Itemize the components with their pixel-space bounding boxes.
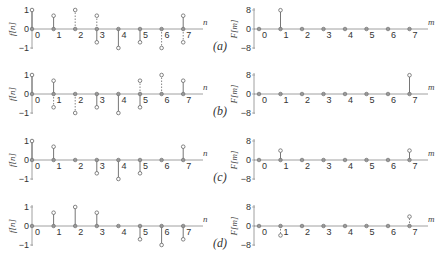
base-marker — [386, 27, 390, 31]
x-axis-label: m — [428, 148, 435, 158]
x-tick-label: 4 — [348, 30, 353, 40]
base-marker — [117, 92, 121, 96]
base-marker — [138, 92, 142, 96]
stem-marker — [138, 106, 142, 110]
stem-marker — [73, 8, 77, 12]
x-tick-label: 5 — [143, 161, 148, 171]
base-marker — [279, 92, 283, 96]
base-marker — [95, 158, 99, 162]
x-tick-label: 0 — [35, 227, 40, 237]
y-tick-label: −8 — [241, 43, 251, 53]
stem-marker — [30, 73, 34, 77]
x-tick-label: 1 — [57, 95, 62, 105]
base-marker — [386, 158, 390, 162]
row-c: 10−1f[n]n0123456780−8F[m]m01234567(c) — [7, 136, 435, 184]
stem-plot-figure: 10−1f[n]n0123456780−8F[m]m01234567(a)10−… — [0, 0, 441, 271]
x-tick-label: 3 — [327, 227, 332, 237]
frequency-domain-panel: 80−8F[m]m01234567 — [229, 136, 435, 184]
x-tick-label: 4 — [121, 30, 126, 40]
base-marker — [30, 92, 34, 96]
y-tick-label: −8 — [241, 240, 251, 250]
x-tick-label: 1 — [284, 30, 289, 40]
y-axis-label: f[n] — [7, 219, 17, 234]
stem-marker — [138, 41, 142, 45]
x-axis-label: m — [428, 17, 435, 27]
base-marker — [30, 158, 34, 162]
base-marker — [30, 27, 34, 31]
panel-label: (c) — [213, 170, 226, 184]
x-tick-label: 3 — [327, 95, 332, 105]
y-tick-label: −1 — [19, 174, 29, 184]
stem-marker — [160, 46, 164, 50]
base-marker — [117, 158, 121, 162]
stem-marker — [117, 111, 121, 115]
stem-marker — [279, 149, 283, 153]
x-tick-label: 6 — [165, 30, 170, 40]
x-tick-label: 3 — [327, 161, 332, 171]
x-tick-label: 2 — [78, 227, 83, 237]
y-tick-label: −1 — [19, 43, 29, 53]
stem-marker — [408, 215, 412, 219]
x-tick-label: 6 — [391, 30, 396, 40]
y-tick-label: 8 — [246, 136, 251, 146]
base-marker — [365, 158, 369, 162]
x-tick-label: 3 — [100, 95, 105, 105]
y-tick-label: 0 — [246, 155, 251, 165]
base-marker — [322, 158, 326, 162]
x-tick-label: 5 — [370, 95, 375, 105]
x-tick-label: 4 — [121, 227, 126, 237]
stem-marker — [138, 238, 142, 242]
x-tick-label: 6 — [165, 161, 170, 171]
time-domain-panel: 10−1f[n]n01234567 — [7, 136, 208, 184]
stem-marker — [95, 106, 99, 110]
x-tick-label: 7 — [413, 161, 418, 171]
x-tick-label: 4 — [348, 95, 353, 105]
base-marker — [343, 224, 347, 228]
x-tick-label: 2 — [78, 161, 83, 171]
stem-marker — [95, 14, 99, 18]
y-axis-label: F[m] — [229, 19, 239, 39]
x-tick-label: 0 — [262, 227, 267, 237]
stem-marker — [52, 106, 56, 110]
x-tick-label: 0 — [262, 95, 267, 105]
base-marker — [181, 92, 185, 96]
x-tick-label: 1 — [284, 227, 289, 237]
x-tick-label: 5 — [143, 30, 148, 40]
x-tick-label: 5 — [370, 227, 375, 237]
stem-marker — [73, 111, 77, 115]
base-marker — [343, 92, 347, 96]
y-tick-label: 0 — [24, 221, 29, 231]
y-axis-label: F[m] — [229, 216, 239, 236]
y-axis-label: F[m] — [229, 150, 239, 170]
x-axis-label: n — [203, 148, 208, 158]
x-tick-label: 2 — [78, 30, 83, 40]
y-tick-label: 8 — [246, 70, 251, 80]
base-marker — [181, 27, 185, 31]
stem-marker — [52, 211, 56, 215]
y-tick-label: 0 — [246, 221, 251, 231]
time-domain-panel: 10−1f[n]n01234567 — [7, 202, 208, 250]
base-marker — [300, 27, 304, 31]
y-tick-label: 1 — [24, 5, 29, 15]
x-tick-label: 3 — [100, 161, 105, 171]
stem-marker — [73, 205, 77, 209]
frequency-domain-panel: 80−8F[m]m01234567 — [229, 5, 435, 53]
x-tick-label: 5 — [143, 227, 148, 237]
x-axis-label: n — [203, 82, 208, 92]
x-tick-label: 4 — [348, 161, 353, 171]
y-tick-label: 0 — [246, 89, 251, 99]
base-marker — [408, 92, 412, 96]
base-marker — [181, 158, 185, 162]
base-marker — [408, 158, 412, 162]
y-tick-label: −8 — [241, 174, 251, 184]
x-tick-label: 1 — [57, 30, 62, 40]
x-tick-label: 0 — [35, 95, 40, 105]
stem-marker — [160, 243, 164, 247]
x-tick-label: 0 — [35, 161, 40, 171]
stem-marker — [160, 73, 164, 77]
base-marker — [30, 224, 34, 228]
base-marker — [279, 224, 283, 228]
base-marker — [386, 224, 390, 228]
base-marker — [138, 27, 142, 31]
base-marker — [117, 27, 121, 31]
